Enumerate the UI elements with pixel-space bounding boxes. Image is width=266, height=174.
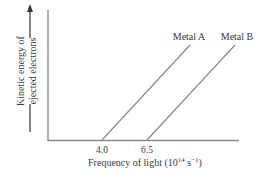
y-axis-label-line2: ejected electrons: [27, 37, 38, 104]
series-line-metal-b: [147, 45, 235, 140]
series-line-metal-a: [102, 45, 190, 140]
x-tick-label: 4.0: [96, 145, 108, 155]
series-label-metal-b: Metal B: [221, 31, 254, 42]
arrow-up-icon: [27, 4, 33, 12]
chart: Kinetic energy of ejected electrons Meta…: [0, 0, 266, 174]
series-label-metal-a: Metal A: [173, 31, 206, 42]
x-axis-label: Frequency of light (1014 s−1): [88, 156, 202, 169]
x-tick-label: 6.5: [141, 145, 153, 155]
y-axis-label-line1: Kinetic energy of: [15, 35, 26, 105]
